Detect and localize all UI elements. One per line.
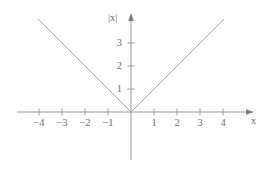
x-axis-arrow-icon — [246, 109, 254, 115]
x-tick-label-neg3: −3 — [51, 118, 73, 129]
x-tick-label-1: 1 — [143, 118, 165, 129]
y-tick-label-3: 3 — [108, 38, 122, 49]
x-axis-title: x — [251, 116, 256, 127]
absolute-value-plot-figure: |x| x −4 −3 −2 −1 1 2 3 4 3 2 1 — [0, 0, 271, 170]
plot-canvas — [0, 0, 271, 170]
x-tick-label-3: 3 — [189, 118, 211, 129]
y-tick-label-1: 1 — [108, 84, 122, 95]
x-tick-label-4: 4 — [212, 118, 234, 129]
x-tick-label-2: 2 — [166, 118, 188, 129]
y-axis-title: |x| — [108, 13, 117, 24]
x-tick-label-neg1: −1 — [97, 118, 119, 129]
x-tick-label-neg2: −2 — [74, 118, 96, 129]
y-tick-label-2: 2 — [108, 61, 122, 72]
y-axis-arrow-icon — [128, 13, 134, 21]
x-tick-label-neg4: −4 — [28, 118, 50, 129]
